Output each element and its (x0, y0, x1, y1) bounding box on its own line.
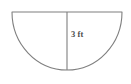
geometry-figure: 3 ft (0, 0, 131, 84)
semicircle-diagram: 3 ft (0, 0, 131, 84)
radius-label: 3 ft (71, 29, 84, 39)
